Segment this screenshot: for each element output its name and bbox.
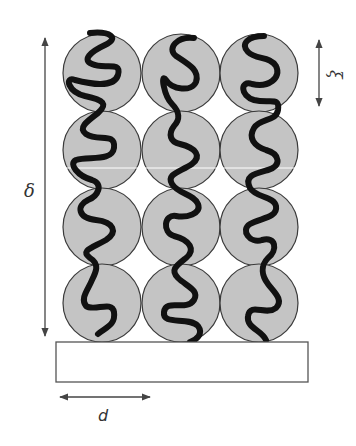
substrate <box>56 342 308 382</box>
blob <box>142 188 220 266</box>
blob <box>142 111 220 189</box>
blob <box>63 111 141 189</box>
blob <box>142 34 220 112</box>
spacing-label: d <box>98 406 109 425</box>
blob-size-label: ξ <box>326 70 345 80</box>
blob <box>63 188 141 266</box>
height-label: δ <box>24 180 35 201</box>
polymer-brush-diagram: δ ξ d <box>0 0 356 446</box>
blob <box>220 188 298 266</box>
